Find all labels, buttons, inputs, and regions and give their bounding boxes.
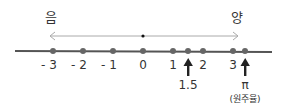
point-2 xyxy=(200,48,206,54)
tick-label: 2 xyxy=(199,58,207,72)
direction-arrow xyxy=(50,32,238,40)
point-pi xyxy=(242,48,248,54)
tick-label: - 3 xyxy=(41,58,57,72)
marker-arrow-1-5 xyxy=(184,58,193,76)
point-0 xyxy=(140,48,146,54)
origin-dot xyxy=(141,34,144,37)
point-1 xyxy=(170,48,176,54)
marker-sublabel-pi: (원주율) xyxy=(229,94,260,104)
point-neg2 xyxy=(80,48,86,54)
point-neg3 xyxy=(50,48,56,54)
positive-label: 양 xyxy=(231,10,243,25)
marker-arrow-pi xyxy=(241,58,250,76)
tick-label: 3 xyxy=(229,58,237,72)
point-neg1 xyxy=(110,48,116,54)
tick-label: 0 xyxy=(139,58,147,72)
negative-label: 음 xyxy=(45,10,57,25)
number-line-diagram: 음 양 - 3 - 2 - 1 0 1 2 3 1.5 π (원주율) xyxy=(0,0,292,110)
tick-label: - 2 xyxy=(71,58,87,72)
point-3 xyxy=(230,48,236,54)
marker-label-pi: π xyxy=(241,78,248,92)
tick-label: 1 xyxy=(169,58,177,72)
tick-label: - 1 xyxy=(101,58,117,72)
point-1-5 xyxy=(185,48,191,54)
marker-label-1-5: 1.5 xyxy=(178,78,197,92)
